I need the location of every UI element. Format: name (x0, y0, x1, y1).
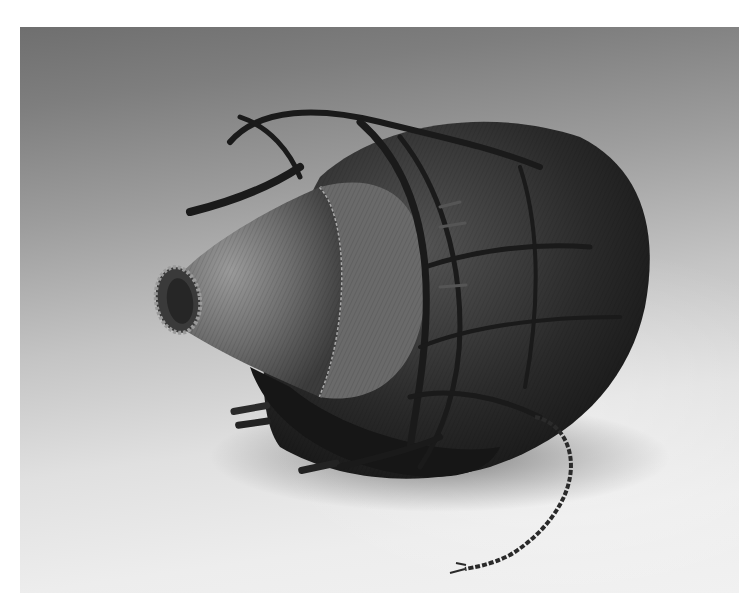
photograph (20, 27, 739, 593)
basket-illustration (20, 27, 739, 593)
